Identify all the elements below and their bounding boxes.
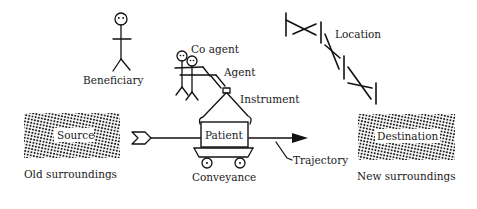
co-agent-label: Co agent bbox=[191, 43, 240, 55]
conveyance-label: Conveyance bbox=[192, 171, 256, 183]
source-label: Source bbox=[57, 129, 94, 141]
destination-region: Destination bbox=[358, 114, 455, 160]
patient-box: Patient bbox=[201, 122, 248, 147]
old-surroundings-label: Old surroundings bbox=[24, 168, 117, 180]
beneficiary-label: Beneficiary bbox=[83, 74, 143, 86]
location-icon bbox=[286, 13, 376, 104]
conveyance-cart-icon bbox=[194, 148, 253, 168]
destination-label: Destination bbox=[377, 130, 439, 142]
beneficiary-figure-icon bbox=[113, 13, 131, 71]
instrument-label: Instrument bbox=[240, 93, 300, 105]
agent-label: Agent bbox=[223, 66, 256, 78]
location-label: Location bbox=[335, 28, 381, 40]
trajectory-label: Trajectory bbox=[293, 154, 348, 166]
source-region: Source bbox=[24, 113, 120, 158]
patient-label: Patient bbox=[205, 129, 243, 141]
new-surroundings-label: New surroundings bbox=[357, 170, 456, 182]
thematic-roles-diagram: Beneficiary Co agent Agent Instrument bbox=[0, 0, 477, 209]
